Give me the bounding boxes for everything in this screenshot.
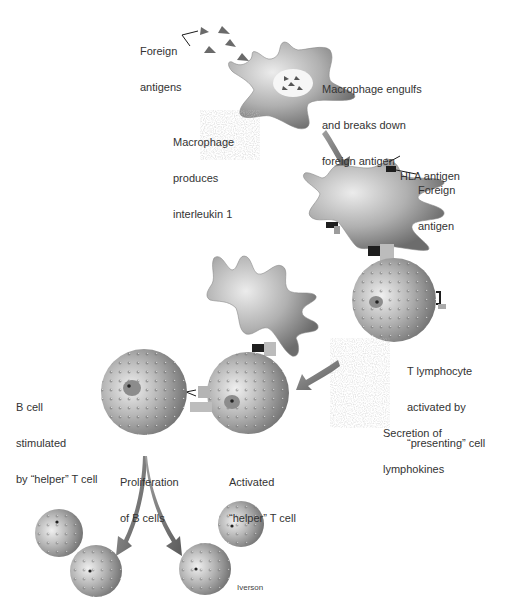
activated-helper-t-cell bbox=[207, 352, 289, 434]
foreign-antigen-particles bbox=[200, 26, 249, 61]
label-secretion-lymphokines: Secretion of lymphokines bbox=[383, 403, 444, 487]
label-foreign-antigen: Foreign antigen bbox=[418, 160, 455, 244]
artist-credit: Iverson bbox=[237, 583, 263, 592]
t-lymphocyte-right bbox=[352, 258, 446, 342]
daughter-b-cell-2 bbox=[70, 545, 122, 597]
daughter-b-cell-1 bbox=[35, 509, 83, 557]
foreign-antigens-pointer bbox=[182, 31, 198, 46]
phagosome bbox=[273, 69, 313, 97]
label-b-cell-stimulated: B cell stimulated by “helper” T cell bbox=[16, 377, 98, 497]
lymphokines-speckle bbox=[330, 338, 390, 428]
b-cell-stimulated bbox=[101, 349, 187, 435]
label-activated-helper: Activated “helper” T cell bbox=[229, 452, 296, 536]
immune-response-diagram: Foreign antigens Macrophage engulfs and … bbox=[0, 0, 508, 612]
daughter-b-cell-3 bbox=[179, 543, 231, 595]
label-foreign-antigens: Foreign antigens bbox=[140, 21, 182, 105]
macrophage-activating-helper bbox=[207, 256, 318, 356]
label-macrophage-produces: Macrophage produces interleukin 1 bbox=[173, 112, 234, 232]
label-proliferation: Proliferation of B cells bbox=[120, 452, 179, 536]
